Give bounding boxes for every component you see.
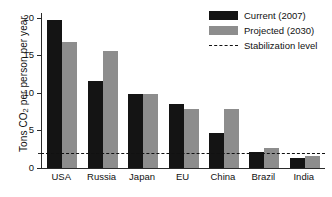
bar <box>143 94 158 168</box>
bar <box>305 156 320 168</box>
x-axis-label-russia: Russia <box>81 171 121 182</box>
legend: Current (2007) Projected (2030) Stabiliz… <box>209 9 331 54</box>
legend-item-stabilization: Stabilization level <box>209 39 331 52</box>
y-tick-15: 15 <box>37 55 41 56</box>
x-axis-label-eu: EU <box>162 171 202 182</box>
x-axis-label-usa: USA <box>41 171 81 182</box>
x-axis-label-japan: Japan <box>122 171 162 182</box>
bar <box>88 81 103 168</box>
bar-group <box>45 13 79 168</box>
y-tick-label-15: 15 <box>23 49 34 60</box>
x-axis-label-china: China <box>203 171 243 182</box>
bar <box>62 42 77 168</box>
emissions-bar-chart: Tons CO2 per person per year 05101520 US… <box>0 0 332 197</box>
legend-label-current: Current (2007) <box>244 9 306 22</box>
x-axis-label-brazil: Brazil <box>243 171 283 182</box>
legend-swatch-current <box>209 11 238 20</box>
y-tick-label-20: 20 <box>23 12 34 23</box>
bar <box>264 148 279 168</box>
bar <box>128 94 143 168</box>
legend-item-projected: Projected (2030) <box>209 24 331 37</box>
y-tick-label-10: 10 <box>23 87 34 98</box>
bar <box>224 109 239 168</box>
bar <box>209 133 224 168</box>
bar <box>290 158 305 168</box>
bar <box>249 152 264 168</box>
x-axis-labels: USARussiaJapanEUChinaBrazilIndia <box>41 171 325 187</box>
y-tick-5: 5 <box>37 130 41 131</box>
x-axis-line <box>41 168 325 169</box>
y-axis-label-prefix: Tons CO <box>18 112 29 152</box>
y-tick-label-0: 0 <box>29 162 34 173</box>
bar <box>103 51 118 168</box>
legend-item-current: Current (2007) <box>209 9 331 22</box>
bar-group <box>86 13 120 168</box>
y-tick-20: 20 <box>37 18 41 19</box>
legend-label-projected: Projected (2030) <box>244 24 314 37</box>
bar <box>169 104 184 168</box>
bar-group <box>126 13 160 168</box>
bar-group <box>167 13 201 168</box>
stabilization-level-line <box>41 153 325 154</box>
y-axis-label-subscript: 2 <box>21 108 30 112</box>
legend-swatch-projected <box>209 26 238 35</box>
bar <box>184 109 199 168</box>
y-tick-0: 0 <box>37 168 41 169</box>
y-tick-10: 10 <box>37 93 41 94</box>
legend-label-stabilization: Stabilization level <box>244 39 317 52</box>
bar <box>47 20 62 168</box>
legend-dashed-line-icon <box>209 45 238 46</box>
y-axis-label: Tons CO2 per person per year <box>18 4 30 164</box>
y-tick-label-5: 5 <box>29 124 34 135</box>
x-axis-label-india: India <box>284 171 324 182</box>
